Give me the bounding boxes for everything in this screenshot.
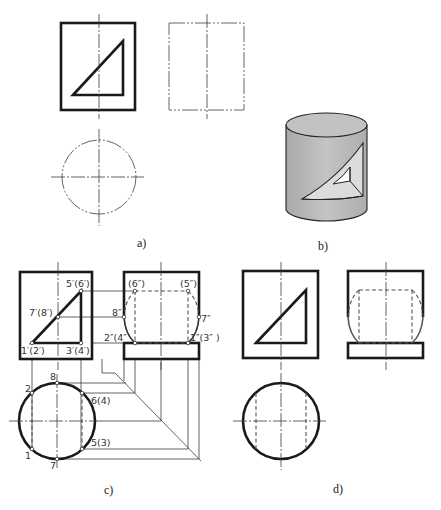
base-outline <box>124 343 199 359</box>
label-7-top: 7 <box>50 460 56 471</box>
panel-a-top-view <box>51 129 144 226</box>
label-6-side: (6″) <box>128 278 145 289</box>
label-7-side: 7″ <box>201 313 211 324</box>
cylinder-top-face <box>286 113 367 137</box>
panel-d-side-view <box>348 262 423 370</box>
panel-a-front-view <box>61 14 135 119</box>
label-2-top: 2 <box>25 383 31 394</box>
caption-b: b) <box>318 239 328 253</box>
panel-c-front-view: 5′(6′) 7′(8′) 1′(2′) 3′(4′) <box>20 262 92 370</box>
panel-d-front-view <box>243 262 318 370</box>
label-5-side: (5″) <box>180 278 197 289</box>
panel-b: b) <box>286 113 367 253</box>
label-6-4-top: 6(4) <box>91 395 111 406</box>
caption-c: c) <box>104 483 113 497</box>
cylinder-pictorial <box>286 113 367 221</box>
label-1-top: 1 <box>25 450 31 461</box>
engineering-drawing: a) b) <box>0 0 441 510</box>
panel-d-top-view <box>233 373 326 470</box>
label-1-2-front: 1′(2′) <box>21 345 45 356</box>
label-8-side: 8″ <box>112 307 122 318</box>
label-5-3-top: 5(3) <box>91 437 111 448</box>
base-outline <box>348 343 423 358</box>
panel-d: d) <box>233 262 423 496</box>
label-8-top: 8 <box>50 371 56 382</box>
side-outline-phantom <box>169 23 244 110</box>
label-3-4-front: 3′(4′) <box>66 345 90 356</box>
caption-d: d) <box>333 482 343 496</box>
panel-c-side-view: (6″) (5″) 8″ 7″ 2″(4″ 1″(3″ ) <box>104 262 220 370</box>
panel-c-top-view: 8 2 6(4) 5(3) 1 7 <box>9 371 111 471</box>
triangular-cutout <box>73 41 123 95</box>
panel-a: a) <box>51 14 244 250</box>
panel-a-side-view <box>169 14 244 119</box>
label-1-3-side: 1″(3″ ) <box>190 332 220 343</box>
label-5-6-front: 5′(6′) <box>66 278 90 289</box>
panel-c: 5′(6′) 7′(8′) 1′(2′) 3′(4′) (6″) (5 <box>9 262 220 497</box>
label-7-8-front: 7′(8′) <box>29 307 53 318</box>
label-2-4-side: 2″(4″ <box>104 332 127 343</box>
caption-a: a) <box>137 236 146 250</box>
